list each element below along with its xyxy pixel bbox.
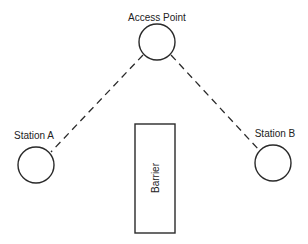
- wireless-diagram: Access Point Station A Station B Barrier: [0, 0, 308, 244]
- access-point-label: Access Point: [128, 12, 186, 23]
- link-ap-station-a: [51, 55, 143, 152]
- station-b-label: Station B: [255, 128, 296, 139]
- link-ap-station-b: [171, 55, 259, 150]
- access-point-node: [139, 24, 175, 60]
- station-a-node: [18, 147, 54, 183]
- station-a-label: Station A: [14, 130, 54, 141]
- station-b-node: [255, 145, 291, 181]
- barrier-label: Barrier: [150, 162, 161, 193]
